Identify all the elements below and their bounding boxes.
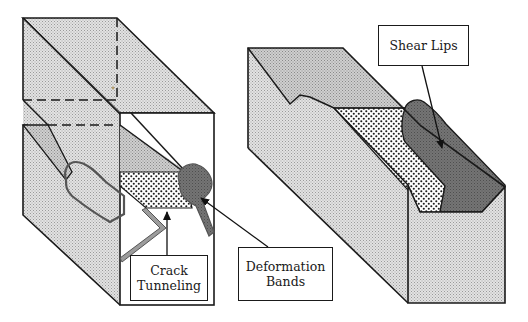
deformation-bands-label: Deformation Bands	[238, 247, 333, 301]
crack-tunneling-label-line2: Tunneling	[137, 278, 201, 293]
deformation-bands-label-line1: Deformation	[246, 259, 325, 274]
shear-lips-label: Shear Lips	[378, 25, 469, 66]
deformation-bands-label-line2: Bands	[246, 274, 325, 289]
crack-tunneling-label-line1: Crack	[137, 263, 201, 278]
shear-lips-label-text: Shear Lips	[389, 38, 457, 53]
crack-tunneling-label: Crack Tunneling	[130, 255, 208, 301]
